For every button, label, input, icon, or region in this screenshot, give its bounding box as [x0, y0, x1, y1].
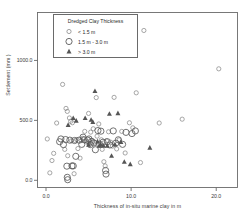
legend-row-0: < 1.5 m — [54, 27, 137, 36]
legend-marker-triangle-icon — [64, 47, 74, 56]
legend: Dredged Clay Thickness < 1.5 m 1.5 m - 3… — [53, 14, 138, 58]
legend-label-2: > 3.0 m — [78, 49, 95, 55]
x-tick-label-2: 20.0 — [203, 193, 229, 199]
x-tick-label-0: 0.0 — [33, 193, 59, 199]
scatter-chart-figure: Settlement (mm ) Thickness of in-situ ma… — [0, 0, 250, 219]
legend-marker-large-circle-icon — [64, 37, 74, 46]
y-tick-label-1: 500.0 — [7, 117, 33, 123]
y-tick-label-0: 0.0 — [7, 177, 33, 183]
x-axis-title: Thickness of in-situ marine clay in m — [37, 203, 238, 209]
legend-label-0: < 1.5 m — [78, 29, 95, 35]
legend-title: Dredged Clay Thickness — [54, 18, 137, 24]
legend-marker-small-circle-icon — [64, 27, 74, 36]
y-tick-label-2: 1000.0 — [7, 57, 33, 63]
legend-row-2: > 3.0 m — [54, 47, 137, 56]
legend-row-1: 1.5 m - 3.0 m — [54, 37, 137, 46]
axis-ticks — [34, 60, 216, 191]
x-tick-label-1: 10.0 — [118, 193, 144, 199]
y-axis-title: Settlement (mm ) — [5, 35, 11, 115]
legend-label-1: 1.5 m - 3.0 m — [78, 39, 108, 45]
